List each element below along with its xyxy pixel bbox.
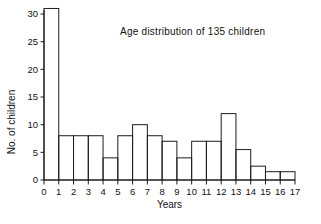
histogram-bar xyxy=(236,150,251,180)
histogram-bar xyxy=(133,125,148,180)
histogram-bar xyxy=(206,141,221,180)
y-axis-tick-label: 30 xyxy=(27,8,38,19)
x-axis-tick-label: 17 xyxy=(290,186,301,197)
x-axis-tick-label: 2 xyxy=(71,186,76,197)
x-axis-tick-label: 16 xyxy=(275,186,286,197)
histogram-bar xyxy=(147,136,162,180)
y-axis-tick-label: 5 xyxy=(33,147,38,158)
histogram-bar xyxy=(118,136,133,180)
histogram-bar xyxy=(44,8,59,180)
histogram-bar xyxy=(162,141,177,180)
x-axis-tick-label: 1 xyxy=(56,186,61,197)
x-axis-tick-label: 7 xyxy=(145,186,150,197)
x-axis-tick-label: 3 xyxy=(86,186,91,197)
histogram-bar xyxy=(192,141,207,180)
histogram-bar xyxy=(88,136,103,180)
chart-page: 05101520253001234567891011121314151617Ye… xyxy=(0,0,321,224)
x-axis-tick-label: 14 xyxy=(245,186,256,197)
x-axis-title: Years xyxy=(157,199,182,210)
histogram-bar xyxy=(74,136,89,180)
x-axis-tick-label: 13 xyxy=(231,186,242,197)
y-axis-tick-label: 15 xyxy=(27,91,38,102)
x-axis-tick-label: 6 xyxy=(130,186,135,197)
y-axis-tick-label: 20 xyxy=(27,64,38,75)
x-axis-tick-label: 11 xyxy=(201,186,211,197)
histogram-chart: 05101520253001234567891011121314151617Ye… xyxy=(0,0,321,224)
histogram-bar xyxy=(280,172,295,180)
histogram-bar xyxy=(103,158,118,180)
x-axis-tick-label: 4 xyxy=(100,186,105,197)
x-axis-tick-label: 9 xyxy=(174,186,179,197)
x-axis-tick-label: 0 xyxy=(41,186,46,197)
x-axis-tick-label: 15 xyxy=(260,186,271,197)
x-axis-tick-label: 10 xyxy=(186,186,197,197)
chart-title: Age distribution of 135 children xyxy=(120,26,265,37)
y-axis-tick-label: 25 xyxy=(27,36,38,47)
histogram-bar xyxy=(265,172,280,180)
histogram-bar xyxy=(221,114,236,180)
histogram-bar xyxy=(59,136,74,180)
y-axis-tick-label: 0 xyxy=(33,174,38,185)
x-axis-tick-label: 8 xyxy=(159,186,164,197)
y-axis-tick-label: 10 xyxy=(27,119,38,130)
histogram-bar xyxy=(177,158,192,180)
x-axis-tick-label: 12 xyxy=(216,186,227,197)
histogram-bar xyxy=(251,166,266,180)
y-axis-title: No. of children xyxy=(6,90,17,154)
x-axis-tick-label: 5 xyxy=(115,186,120,197)
